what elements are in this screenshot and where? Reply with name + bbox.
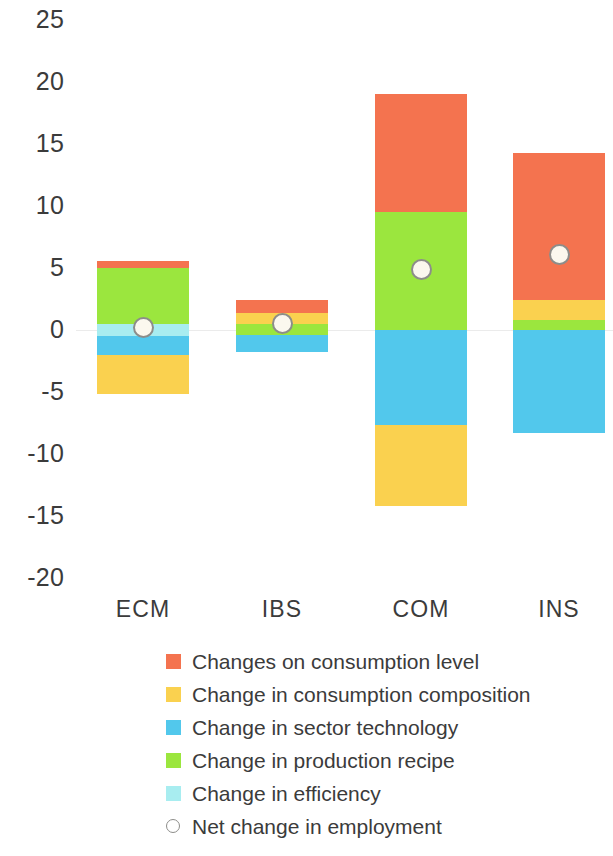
bar-segment[interactable] xyxy=(97,268,189,324)
legend-color-swatch-icon xyxy=(166,687,181,702)
bar-segment[interactable] xyxy=(236,335,328,352)
bar-column-ibs[interactable] xyxy=(236,0,328,590)
bar-segment[interactable] xyxy=(513,153,605,301)
legend-item[interactable]: Change in consumption composition xyxy=(166,678,606,711)
legend-item[interactable]: Change in efficiency xyxy=(166,777,606,810)
bar-column-ins[interactable] xyxy=(513,0,605,590)
plot-area: 2520151050-5-10-15-20 ECMIBSCOMINS xyxy=(0,0,613,590)
y-axis-tick-label: -15 xyxy=(2,503,64,528)
legend-color-swatch-icon xyxy=(166,654,181,669)
legend-item[interactable]: Net change in employment xyxy=(166,810,606,843)
bar-segment[interactable] xyxy=(236,300,328,312)
bar-column-ecm[interactable] xyxy=(97,0,189,590)
y-axis-tick-label: 15 xyxy=(2,131,64,156)
x-axis-label-com: COM xyxy=(375,596,467,622)
stacked-bar-chart: 2520151050-5-10-15-20 ECMIBSCOMINS Chang… xyxy=(0,0,613,856)
y-axis-tick-label: 20 xyxy=(2,69,64,94)
net-change-marker[interactable] xyxy=(272,313,293,334)
bar-column-com[interactable] xyxy=(375,0,467,590)
bar-segment[interactable] xyxy=(97,355,189,395)
net-change-marker[interactable] xyxy=(549,244,570,265)
y-axis-tick-label: 5 xyxy=(2,255,64,280)
x-axis-label-ecm: ECM xyxy=(97,596,189,622)
bar-segment[interactable] xyxy=(513,320,605,330)
bar-segment[interactable] xyxy=(513,300,605,320)
legend-item[interactable]: Change in sector technology xyxy=(166,711,606,744)
legend-item[interactable]: Change in production recipe xyxy=(166,744,606,777)
y-axis-tick-label: 25 xyxy=(2,7,64,32)
bar-segment[interactable] xyxy=(375,94,467,212)
legend-item-label: Change in sector technology xyxy=(192,716,458,739)
legend-color-swatch-icon xyxy=(166,720,181,735)
y-axis-tick-label: 0 xyxy=(2,317,64,342)
bar-segment[interactable] xyxy=(513,330,605,433)
x-axis-label-ibs: IBS xyxy=(236,596,328,622)
bar-segment[interactable] xyxy=(375,330,467,425)
net-change-marker[interactable] xyxy=(133,317,154,338)
legend-item-label: Changes on consumption level xyxy=(192,650,479,673)
chart-legend: Changes on consumption levelChange in co… xyxy=(166,645,606,843)
y-axis-tick-label: -20 xyxy=(2,565,64,590)
legend-open-circle-icon xyxy=(166,819,181,834)
bar-segment[interactable] xyxy=(97,336,189,355)
legend-color-swatch-icon xyxy=(166,786,181,801)
y-axis-tick-label: 10 xyxy=(2,193,64,218)
x-axis-label-ins: INS xyxy=(513,596,605,622)
legend-color-swatch-icon xyxy=(166,753,181,768)
y-axis-tick-label: -5 xyxy=(2,379,64,404)
net-change-marker[interactable] xyxy=(411,259,432,280)
legend-item-label: Change in efficiency xyxy=(192,782,381,805)
legend-item-label: Change in production recipe xyxy=(192,749,455,772)
bar-segment[interactable] xyxy=(97,261,189,268)
legend-item-label: Change in consumption composition xyxy=(192,683,531,706)
legend-item[interactable]: Changes on consumption level xyxy=(166,645,606,678)
legend-item-label: Net change in employment xyxy=(192,815,442,838)
y-axis-tick-label: -10 xyxy=(2,441,64,466)
bar-segment[interactable] xyxy=(375,425,467,506)
